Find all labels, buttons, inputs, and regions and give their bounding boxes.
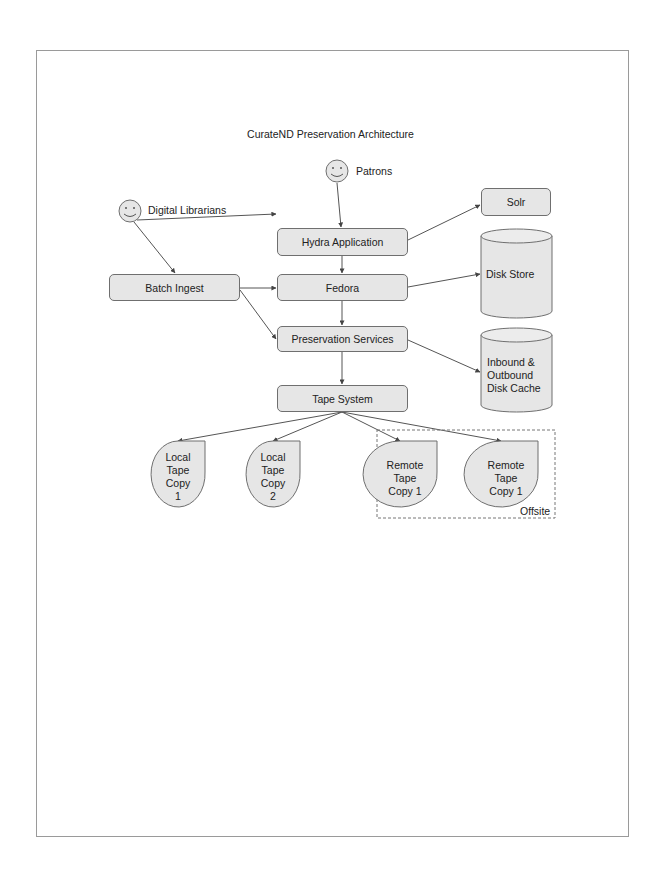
edge-hydra-solr xyxy=(408,205,480,240)
tape-label-line: Tape xyxy=(481,472,531,485)
tape-label-line: Copy xyxy=(253,477,293,490)
edge-tape-remote2 xyxy=(342,412,501,441)
batch-ingest-node[interactable]: Batch Ingest xyxy=(109,274,240,301)
tape-label-line: Tape xyxy=(380,472,430,485)
actor-label-patrons: Patrons xyxy=(356,165,392,177)
edge-librarians-batch xyxy=(134,222,175,273)
remote-tape-copy-1-node[interactable]: Remote Tape Copy 1 xyxy=(380,459,430,498)
disk-cache-label-line1: Inbound & xyxy=(487,356,535,369)
solr-node[interactable]: Solr xyxy=(481,188,551,216)
edge-preservation-cache xyxy=(408,340,480,372)
tape-label-line: 2 xyxy=(253,490,293,503)
tape-label-line: Copy 1 xyxy=(380,485,430,498)
tape-label-line: Tape xyxy=(158,464,198,477)
edge-tape-local2 xyxy=(273,412,342,441)
actor-label-digital-librarians: Digital Librarians xyxy=(148,204,226,216)
tape-label-line: Copy xyxy=(158,477,198,490)
tape-system-node[interactable]: Tape System xyxy=(277,385,408,412)
tape-label-line: Local xyxy=(253,451,293,464)
preservation-services-node[interactable]: Preservation Services xyxy=(277,326,408,352)
fedora-node[interactable]: Fedora xyxy=(277,274,408,301)
tape-label-line: Remote xyxy=(380,459,430,472)
edge-fedora-diskstore xyxy=(408,274,480,287)
disk-cache-label-line2: Outbound xyxy=(487,369,533,382)
disk-store-label: Disk Store xyxy=(486,268,534,281)
hydra-application-node[interactable]: Hydra Application xyxy=(277,228,408,256)
edge-patrons-hydra xyxy=(337,183,341,227)
edge-batch-preservation xyxy=(240,290,276,339)
tape-label-line: Local xyxy=(158,451,198,464)
connectors-layer xyxy=(0,0,661,877)
smiley-icon xyxy=(119,200,141,222)
tape-label-line: Copy 1 xyxy=(481,485,531,498)
smiley-icon xyxy=(326,160,348,182)
remote-tape-copy-2-node[interactable]: Remote Tape Copy 1 xyxy=(481,459,531,498)
disk-cache-label-line3: Disk Cache xyxy=(487,382,541,395)
diagram-canvas: CurateND Preservation Architecture xyxy=(0,0,661,877)
tape-label-line: 1 xyxy=(158,490,198,503)
edge-tape-remote1 xyxy=(342,412,400,441)
edge-tape-local1 xyxy=(178,412,342,441)
tape-label-line: Tape xyxy=(253,464,293,477)
tape-label-line: Remote xyxy=(481,459,531,472)
local-tape-copy-1-node[interactable]: Local Tape Copy 1 xyxy=(158,451,198,503)
offsite-group-label: Offsite xyxy=(520,505,550,517)
local-tape-copy-2-node[interactable]: Local Tape Copy 2 xyxy=(253,451,293,503)
